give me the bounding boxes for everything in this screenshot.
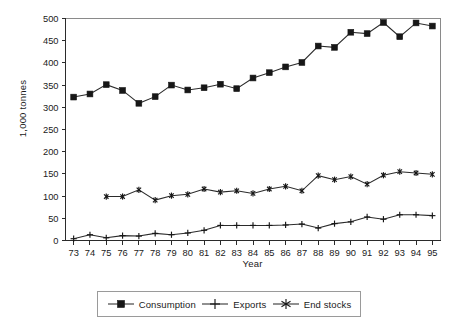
y-tick-label: 150: [43, 169, 59, 179]
legend-item-exports[interactable]: Exports: [201, 298, 266, 310]
x-tick-label: 83: [232, 248, 242, 258]
data-series-group: [71, 20, 436, 242]
series-consumption: [71, 20, 436, 107]
x-tick-label: 75: [101, 248, 111, 258]
plot-frame: [66, 19, 441, 241]
x-tick-label: 89: [329, 248, 339, 258]
legend-label-end-stocks: End stocks: [304, 299, 351, 310]
series-exports: [71, 212, 436, 242]
x-tick-label: 91: [362, 248, 372, 258]
x-tick-label: 87: [297, 248, 307, 258]
legend-item-consumption[interactable]: Consumption: [107, 298, 196, 310]
y-tick-label: 0: [53, 236, 58, 246]
y-tick-label: 400: [43, 58, 59, 68]
plot-area: 050100150200250300350400450500 737475767…: [0, 0, 456, 332]
series-end-stocks: [104, 169, 435, 204]
x-tick-label: 80: [183, 248, 193, 258]
y-tick-label: 500: [43, 14, 59, 24]
x-tick-label: 86: [280, 248, 290, 258]
x-tick-label: 95: [427, 248, 437, 258]
x-tick-label: 85: [264, 248, 274, 258]
x-tick-label: 92: [378, 248, 388, 258]
filled-square-marker-icon: [107, 298, 135, 310]
y-tick-label: 250: [43, 125, 59, 135]
x-tick-label: 79: [166, 248, 176, 258]
legend-label-exports: Exports: [233, 299, 266, 310]
x-tick-label: 94: [411, 248, 421, 258]
x-tick-label: 82: [215, 248, 225, 258]
x-tick-label: 74: [85, 248, 95, 258]
y-tick-label: 50: [48, 214, 58, 224]
y-tick-label: 100: [43, 192, 59, 202]
x-tick-label: 90: [346, 248, 356, 258]
y-tick-label: 450: [43, 36, 59, 46]
x-axis-title: Year: [65, 258, 440, 269]
x-tick-label: 77: [134, 248, 144, 258]
x-tick-label: 73: [68, 248, 78, 258]
chart-legend: Consumption Exports End stocks: [97, 291, 361, 317]
legend-label-consumption: Consumption: [139, 299, 196, 310]
chart-figure: 1,000 tonnes 050100150200250300350400450…: [0, 0, 456, 332]
x-tick-label: 78: [150, 248, 160, 258]
asterisk-marker-icon: [272, 298, 300, 310]
x-axis-ticks: 7374757677787980818283848586878889909192…: [68, 241, 437, 258]
y-tick-label: 200: [43, 147, 59, 157]
x-tick-label: 84: [248, 248, 258, 258]
legend-item-end-stocks[interactable]: End stocks: [272, 298, 351, 310]
y-axis-ticks: 050100150200250300350400450500: [43, 14, 66, 246]
y-tick-label: 350: [43, 81, 59, 91]
x-tick-label: 88: [313, 248, 323, 258]
x-tick-label: 93: [395, 248, 405, 258]
x-tick-label: 76: [117, 248, 127, 258]
y-tick-label: 300: [43, 103, 59, 113]
x-tick-label: 81: [199, 248, 209, 258]
plus-marker-icon: [201, 298, 229, 310]
